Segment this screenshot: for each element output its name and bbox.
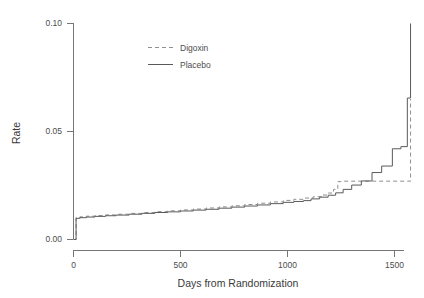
- x-tick-label-1000: 1000: [278, 260, 297, 270]
- x-tick-marks: [74, 251, 395, 257]
- x-tick-label-0: 0: [71, 260, 76, 270]
- x-tick-label-1500: 1500: [385, 260, 404, 270]
- series-line-placebo: [74, 24, 411, 240]
- y-tick-label-1: 0.05: [45, 126, 62, 136]
- y-axis-title: Rate: [10, 122, 22, 144]
- legend-label-placebo: Placebo: [180, 60, 211, 70]
- x-axis-title: Days from Randomization: [178, 277, 299, 289]
- legend-label-digoxin: Digoxin: [180, 43, 209, 53]
- y-tick-label-0: 0.10: [45, 18, 62, 28]
- series-line-digoxin: [74, 99, 411, 239]
- y-tick-marks: [67, 24, 73, 240]
- chart-figure: 0.10 0.05 0.00 0 500 1000 1500 Days from…: [0, 0, 424, 298]
- x-tick-label-500: 500: [173, 260, 187, 270]
- y-tick-label-2: 0.00: [45, 234, 62, 244]
- legend: Digoxin Placebo: [148, 43, 211, 70]
- step-plot: 0.10 0.05 0.00 0 500 1000 1500 Days from…: [0, 0, 424, 298]
